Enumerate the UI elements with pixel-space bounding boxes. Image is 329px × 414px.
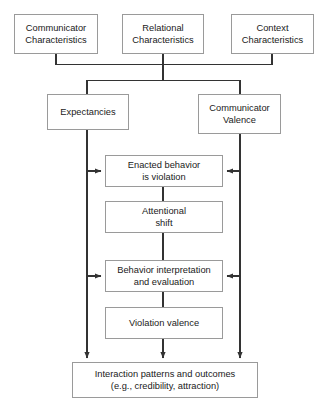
node-attentional-shift[interactable]: Attentional shift: [105, 201, 223, 233]
node-behavior-interpretation-and-evaluation[interactable]: Behavior interpretation and evaluation: [105, 260, 223, 292]
node-label: Behavior interpretation and evaluation: [117, 264, 211, 288]
node-violation-valence[interactable]: Violation valence: [105, 307, 223, 339]
node-interaction-patterns-and-outcomes[interactable]: Interaction patterns and outcomes (e.g.,…: [72, 362, 258, 398]
node-expectancies[interactable]: Expectancies: [47, 94, 129, 130]
flow-diagram: Communicator Characteristics Relational …: [0, 0, 329, 414]
node-label: Violation valence: [129, 317, 199, 329]
node-label: Interaction patterns and outcomes (e.g.,…: [95, 368, 236, 392]
edge-second-bus: [87, 81, 240, 95]
node-enacted-behavior-is-violation[interactable]: Enacted behavior is violation: [105, 155, 223, 187]
node-label: Attentional shift: [142, 205, 186, 229]
node-communicator-valence[interactable]: Communicator Valence: [198, 94, 281, 134]
node-label: Enacted behavior is violation: [128, 159, 200, 183]
node-relational-characteristics[interactable]: Relational Characteristics: [122, 14, 204, 54]
node-label: Expectancies: [60, 106, 115, 118]
node-communicator-characteristics[interactable]: Communicator Characteristics: [14, 14, 98, 54]
node-label: Communicator Characteristics: [25, 22, 86, 46]
edge-top-bus: [56, 54, 272, 65]
node-label: Relational Characteristics: [132, 22, 193, 46]
node-label: Communicator Valence: [209, 102, 269, 126]
node-label: Context Characteristics: [242, 22, 303, 46]
node-context-characteristics[interactable]: Context Characteristics: [231, 14, 314, 54]
